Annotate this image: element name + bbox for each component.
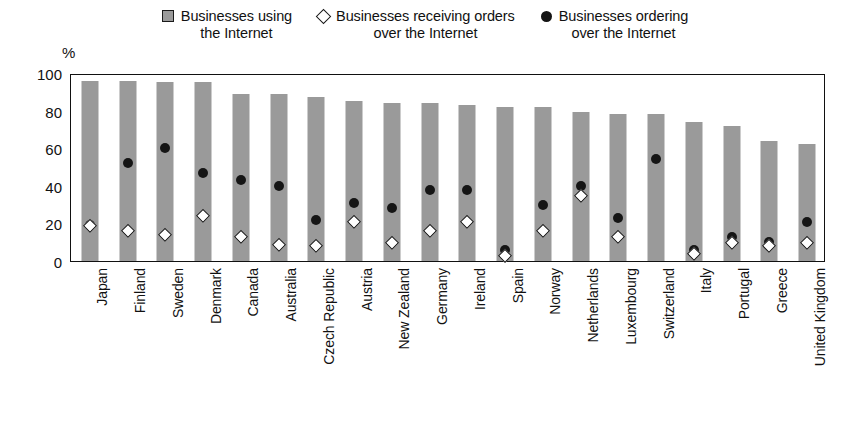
point-businesses-ordering[interactable] — [425, 185, 435, 195]
bar-group[interactable] — [637, 75, 675, 261]
bar-group[interactable] — [788, 75, 826, 261]
bar-group[interactable] — [298, 75, 336, 261]
x-tick-label: Denmark — [208, 268, 224, 324]
bar-group[interactable] — [713, 75, 751, 261]
x-tick-label: Japan — [94, 268, 110, 306]
y-axis-unit-label: % — [62, 44, 75, 61]
bar-businesses-using-internet[interactable] — [346, 101, 363, 261]
bar-businesses-using-internet[interactable] — [270, 94, 287, 261]
x-tick-label: Finland — [132, 268, 148, 313]
bar-businesses-using-internet[interactable] — [459, 105, 476, 261]
x-tick-label: Canada — [245, 268, 261, 316]
y-tick-label: 40 — [28, 178, 62, 195]
y-tick-label: 60 — [28, 141, 62, 158]
x-tick-label: Italy — [698, 268, 714, 293]
x-tick-label: Sweden — [170, 268, 186, 318]
bar-businesses-using-internet[interactable] — [648, 114, 665, 261]
x-tick-label: Luxembourg — [623, 268, 639, 345]
x-tick-label: Austria — [359, 268, 375, 311]
plot-inner — [71, 75, 824, 261]
x-tick-label: Australia — [283, 268, 299, 322]
x-tick-label: Ireland — [472, 268, 488, 310]
y-tick-label: 20 — [28, 216, 62, 233]
point-businesses-ordering[interactable] — [198, 168, 208, 178]
point-businesses-ordering[interactable] — [236, 175, 246, 185]
x-tick-label: Germany — [434, 268, 450, 325]
y-tick-label: 80 — [28, 103, 62, 120]
bar-group[interactable] — [260, 75, 298, 261]
x-tick-label: Switzerland — [661, 268, 677, 339]
bar-group[interactable] — [411, 75, 449, 261]
point-businesses-ordering[interactable] — [651, 154, 661, 164]
bar-businesses-using-internet[interactable] — [497, 107, 514, 261]
bar-group[interactable] — [449, 75, 487, 261]
point-businesses-ordering[interactable] — [311, 215, 321, 225]
bar-businesses-using-internet[interactable] — [81, 81, 98, 261]
point-businesses-ordering[interactable] — [160, 143, 170, 153]
plot-frame — [70, 74, 825, 262]
x-tick-label: Spain — [510, 268, 526, 303]
point-businesses-ordering[interactable] — [123, 158, 133, 168]
bar-group[interactable] — [71, 75, 109, 261]
bar-group[interactable] — [675, 75, 713, 261]
x-tick-label: New Zealand — [396, 268, 412, 349]
x-tick-label: Czech Republic — [321, 268, 337, 365]
bar-group[interactable] — [524, 75, 562, 261]
bar-group[interactable] — [335, 75, 373, 261]
bar-group[interactable] — [562, 75, 600, 261]
bar-group[interactable] — [109, 75, 147, 261]
bar-group[interactable] — [486, 75, 524, 261]
x-tick-label: Portugal — [736, 268, 752, 319]
bar-group[interactable] — [147, 75, 185, 261]
point-businesses-ordering[interactable] — [538, 200, 548, 210]
point-businesses-ordering[interactable] — [387, 203, 397, 213]
point-businesses-ordering[interactable] — [349, 198, 359, 208]
bar-group[interactable] — [184, 75, 222, 261]
point-businesses-ordering[interactable] — [802, 217, 812, 227]
chart-area: % 100806040200 JapanFinlandSwedenDenmark… — [0, 0, 850, 425]
x-tick-label: Netherlands — [585, 268, 601, 342]
bar-businesses-using-internet[interactable] — [308, 97, 325, 261]
y-tick-label: 100 — [28, 66, 62, 83]
bar-group[interactable] — [222, 75, 260, 261]
point-businesses-ordering[interactable] — [274, 181, 284, 191]
bar-businesses-using-internet[interactable] — [685, 122, 702, 261]
bar-group[interactable] — [751, 75, 789, 261]
x-tick-label: United Kingdom — [812, 268, 828, 366]
bar-businesses-using-internet[interactable] — [534, 107, 551, 261]
x-tick-label: Greece — [774, 268, 790, 313]
y-tick-label: 0 — [28, 254, 62, 271]
point-businesses-ordering[interactable] — [613, 213, 623, 223]
x-tick-label: Norway — [547, 268, 563, 315]
point-businesses-ordering[interactable] — [462, 185, 472, 195]
bar-group[interactable] — [373, 75, 411, 261]
bar-group[interactable] — [600, 75, 638, 261]
